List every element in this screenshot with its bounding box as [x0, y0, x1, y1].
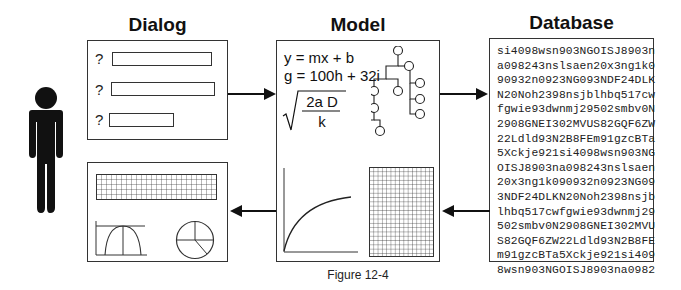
database-record-line: m91gzcBTa5Xckje921si409	[497, 248, 653, 263]
question-mark: ?	[95, 111, 103, 128]
database-record-line: 8wsn903NGOISJ8903na0982	[497, 263, 653, 278]
database-record-line: 502smbv0N2908GNEI302MVU	[497, 219, 653, 234]
arrow-model-to-output	[228, 205, 278, 217]
output-view-box	[87, 162, 228, 262]
arrow-database-to-model	[440, 205, 490, 217]
grid-table-icon	[369, 167, 434, 257]
database-record-line: N20Noh2398nsjblhbq517cw	[497, 88, 653, 103]
database-record-line: 5Xckje921si4098wsn903NG	[497, 146, 653, 161]
pie-chart-icon	[175, 220, 215, 260]
tree-diagram-icon	[371, 46, 441, 138]
dialog-input-3[interactable]	[109, 113, 174, 127]
sqrt-formula: 2a D k	[282, 90, 352, 132]
database-record-line: OISJ8903na098243nslsaen	[497, 161, 653, 176]
database-record-line: lhbq517cwfgwie93dwnmj29	[497, 205, 653, 220]
dialog-title: Dialog	[87, 14, 228, 36]
database-title: Database	[489, 12, 654, 34]
person-icon	[22, 86, 70, 214]
database-record-line: 90932n0923NG093NDF24DLK	[497, 73, 653, 88]
curve-chart-icon	[283, 167, 359, 253]
sqrt-numerator: 2a D	[302, 92, 342, 111]
question-mark: ?	[95, 50, 103, 67]
database-record-line: 22Ldld93N2B8FEm91gzcBTa	[497, 132, 653, 147]
question-mark: ?	[95, 81, 103, 98]
database-record-line: 2908GNEI302MVUS82GQF6ZW	[497, 117, 653, 132]
database-box: si4098wsn903NGOISJ8903n a098243nslsaen20…	[489, 38, 654, 262]
model-title: Model	[276, 14, 440, 36]
arrow-model-to-database	[440, 88, 490, 100]
bell-curve-chart-icon	[95, 220, 147, 256]
figure-caption: Figure 12-4	[276, 268, 440, 282]
sqrt-denominator: k	[302, 112, 342, 131]
dialog-input-1[interactable]	[112, 52, 212, 66]
equation-line: y = mx + b	[284, 48, 354, 67]
database-record-line: si4098wsn903NGOISJ8903n	[497, 44, 653, 59]
database-record-line: a098243nslsaen20x3ng1k0	[497, 59, 653, 74]
dialog-box: ? ? ?	[87, 40, 228, 140]
database-record-line: fgwie93dwnmj29502smbv0N	[497, 102, 653, 117]
model-box: y = mx + b g = 100h + 32i 2a D k	[276, 40, 440, 262]
grid-table-icon	[96, 174, 217, 200]
equation-line: g = 100h + 32i	[284, 66, 380, 85]
database-record-line: 3NDF24DLKN20Noh2398nsjb	[497, 190, 653, 205]
database-record-line: 20x3ng1k090932n0923NG09	[497, 175, 653, 190]
dialog-input-2[interactable]	[111, 82, 215, 96]
arrow-dialog-to-model	[228, 88, 278, 100]
database-record-line: S82GQF6ZW22Ldld93N2B8FE	[497, 234, 653, 249]
